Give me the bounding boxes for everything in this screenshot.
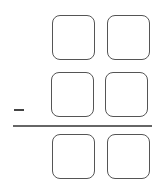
difference-ones-box[interactable] [107, 134, 150, 179]
difference-tens-value [53, 135, 54, 136]
minuend-tens-value [53, 16, 54, 17]
minuend-tens-box[interactable] [52, 15, 95, 60]
minuend-ones-box[interactable] [107, 15, 150, 60]
subtrahend-tens-value [52, 73, 53, 74]
difference-ones-value [108, 135, 109, 136]
difference-tens-box[interactable] [52, 134, 95, 179]
subtrahend-tens-box[interactable] [51, 72, 94, 117]
subtrahend-ones-box[interactable] [105, 72, 148, 117]
minuend-ones-value [108, 16, 109, 17]
minus-sign-icon: − [14, 109, 24, 111]
subtrahend-ones-value [106, 73, 107, 74]
answer-divider-line [13, 125, 152, 127]
